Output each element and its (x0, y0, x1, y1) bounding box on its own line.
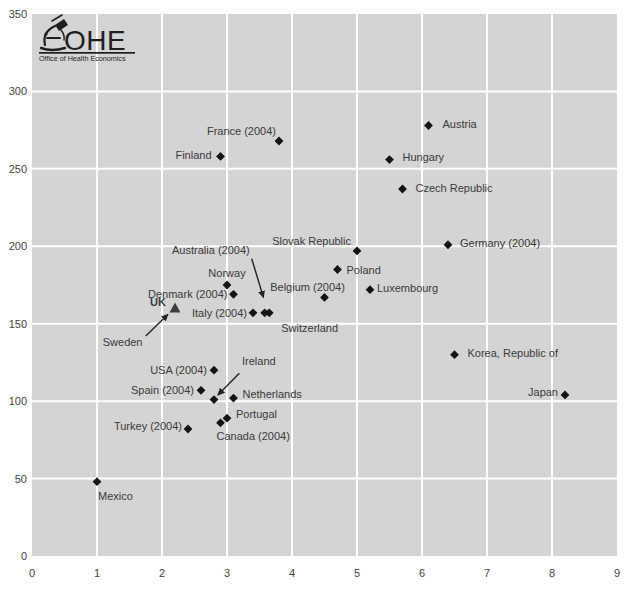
data-point-label: UK (150, 296, 166, 308)
data-point-label: Switzerland (281, 322, 338, 334)
y-tick-label: 250 (9, 163, 27, 175)
data-point-label: Mexico (98, 490, 133, 502)
data-point-label: USA (2004) (150, 364, 207, 376)
scatter-chart: OHE Office of Health Economics AustriaFr… (0, 0, 625, 598)
chart-page: OHE Office of Health Economics AustriaFr… (0, 0, 625, 598)
y-tick-label: 100 (9, 395, 27, 407)
y-tick-label: 200 (9, 240, 27, 252)
data-point-label: Canada (2004) (217, 430, 290, 442)
x-tick-label: 6 (419, 567, 425, 579)
data-point-label: Luxembourg (377, 282, 438, 294)
y-tick-label: 150 (9, 318, 27, 330)
x-tick-label: 1 (94, 567, 100, 579)
data-point-label: Slovak Republic (272, 235, 351, 247)
x-tick-label: 8 (549, 567, 555, 579)
x-tick-label: 5 (354, 567, 360, 579)
data-point-label: Korea, Republic of (468, 347, 559, 359)
data-point-label: Belgium (2004) (270, 281, 345, 293)
data-point-label: Australia (2004) (172, 244, 250, 256)
data-point-label: Finland (175, 149, 211, 161)
data-point-label: Czech Republic (416, 182, 494, 194)
logo-name: OHE (64, 25, 126, 56)
data-point-label: Portugal (236, 408, 277, 420)
data-point-label: France (2004) (207, 125, 276, 137)
x-tick-label: 2 (159, 567, 165, 579)
x-tick-label: 3 (224, 567, 230, 579)
data-point-label: Turkey (2004) (114, 420, 182, 432)
x-tick-label: 9 (614, 567, 620, 579)
y-tick-label: 50 (15, 473, 27, 485)
x-tick-label: 7 (484, 567, 490, 579)
data-point-label: Netherlands (243, 388, 303, 400)
x-tick-label: 4 (289, 567, 295, 579)
data-point-label: Japan (528, 386, 558, 398)
data-point-label: Sweden (103, 336, 143, 348)
data-point-label: Austria (443, 118, 478, 130)
data-point-label: Hungary (403, 151, 445, 163)
data-point-label: Germany (2004) (460, 237, 540, 249)
y-tick-label: 300 (9, 85, 27, 97)
data-point-label: Ireland (242, 355, 276, 367)
data-point-label: Spain (2004) (131, 384, 194, 396)
logo-subtitle: Office of Health Economics (39, 54, 126, 63)
x-tick-label: 0 (29, 567, 35, 579)
data-point-label: Poland (347, 264, 381, 276)
data-point-label: Norway (208, 267, 246, 279)
y-tick-label: 0 (21, 550, 27, 562)
y-tick-label: 350 (9, 8, 27, 20)
data-point-label: Italy (2004) (192, 307, 247, 319)
